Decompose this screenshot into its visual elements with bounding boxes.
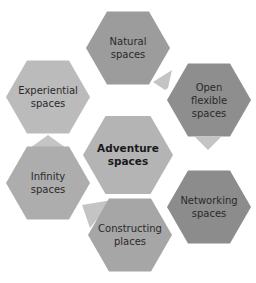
connector-arrow [195,137,221,150]
hexagon-label-line: Adventure [97,142,159,154]
hexagon-label-line: places [114,236,146,247]
hexagon-label-line: Natural [110,36,147,47]
hexagon-label-line: spaces [192,108,227,119]
hexagon-label-line: Infinity [31,171,66,182]
hexagon-infinity: Infinityspaces [6,147,90,220]
hexagon-open-flexible: Openflexiblespaces [167,64,251,137]
hexagon-shape [167,171,251,244]
hexagon-networking: Networkingspaces [167,171,251,244]
hexagon-label-line: spaces [31,98,66,109]
connector-arrow [153,70,172,90]
connector-arrow [30,135,66,148]
hexagon-experiential: Experientialspaces [6,61,90,134]
hexagon-label-line: flexible [191,95,227,106]
hexagon-center-adventure: Adventurespaces [83,116,173,194]
hexagon-shape [86,12,170,85]
hexagon-label-line: spaces [31,184,66,195]
hexagon-diagram: NaturalspacesOpenflexiblespacesNetworkin… [0,0,256,283]
hexagon-label-line: Constructing [98,223,162,234]
hexagon-label-line: Experiential [18,85,78,96]
hexagon-label-line: spaces [192,208,227,219]
hexagon-label-line: Open [196,82,223,93]
hexagon-natural: Naturalspaces [86,12,170,85]
hexagon-label-line: spaces [111,49,146,60]
hexagon-label-line: Networking [180,195,237,206]
hexagon-shape [6,61,90,134]
hexagon-label-line: spaces [108,155,148,167]
hexagon-shape [6,147,90,220]
